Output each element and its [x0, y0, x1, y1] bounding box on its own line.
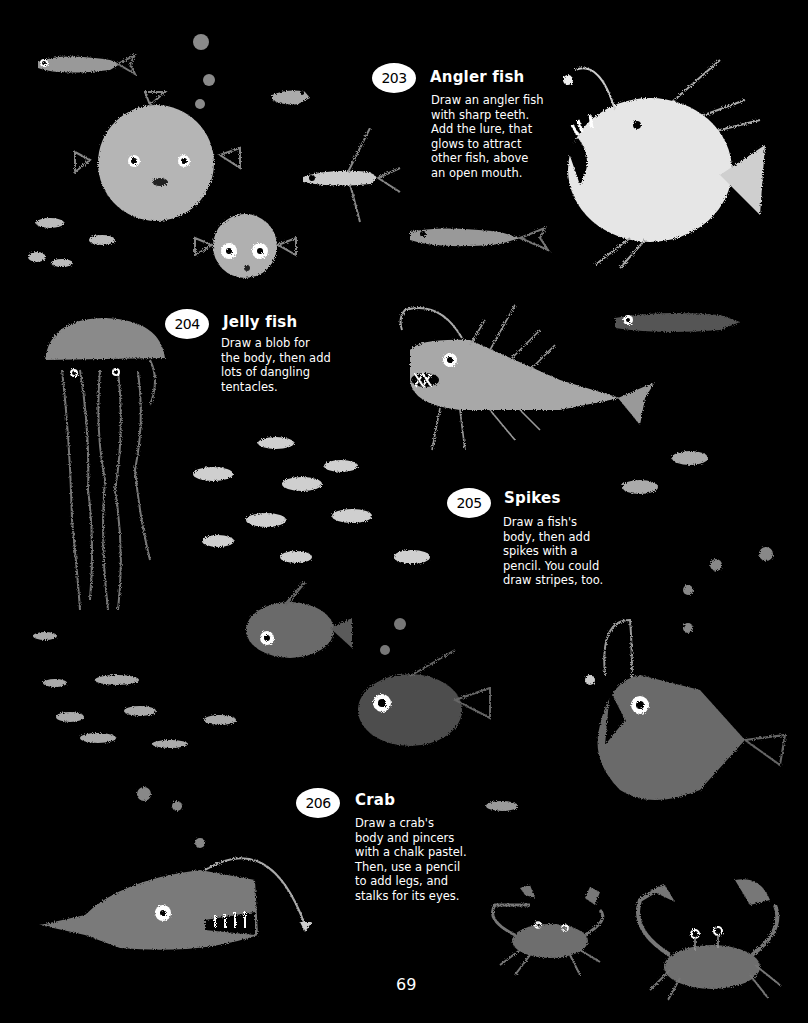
- small-fish-icon: [486, 801, 518, 811]
- crab-right-icon: [638, 879, 780, 1000]
- step-number-badge: 206: [296, 788, 340, 818]
- step-description: Draw an angler fish with sharp teeth. Ad…: [431, 93, 544, 181]
- dark-angler-fish-icon: [585, 547, 785, 800]
- small-fish-icon: [410, 228, 548, 250]
- dark-fish-icon: [246, 582, 352, 658]
- pufferfish-small-icon: [195, 214, 296, 278]
- step-description: Draw a blob for the body, then add lots …: [221, 336, 331, 394]
- small-fish-icon: [272, 91, 310, 105]
- step-title: Angler fish: [430, 68, 524, 86]
- small-fish-group-icon: [33, 632, 236, 748]
- page-number: 69: [396, 975, 416, 994]
- long-angler-fish-icon: [40, 787, 312, 950]
- small-fish-icon: [622, 451, 708, 494]
- small-fish-icon: [38, 55, 135, 74]
- step-number-badge: 203: [372, 63, 416, 93]
- bubbles-icon: [193, 34, 215, 109]
- step-description: Draw a crab's body and pincers with a ch…: [355, 816, 467, 904]
- step-number-badge: 204: [165, 309, 209, 339]
- angler-fish-white-icon: [563, 60, 765, 268]
- dark-fish-icon: [358, 650, 490, 746]
- step-description: Draw a fish's body, then add spikes with…: [503, 515, 603, 588]
- step-number-badge: 205: [447, 488, 491, 518]
- jellyfish-icon: [45, 318, 165, 610]
- crab-left-icon: [493, 885, 603, 975]
- small-fish-icon: [615, 313, 740, 332]
- step-title: Crab: [355, 791, 395, 809]
- pufferfish-large-icon: [75, 92, 240, 221]
- fish-school-icon: [193, 437, 430, 564]
- flying-fish-icon: [303, 128, 400, 222]
- step-title: Spikes: [504, 489, 561, 507]
- bubbles-icon: [380, 618, 406, 655]
- step-title: Jelly fish: [223, 313, 297, 331]
- small-fish-group-icon: [28, 218, 115, 267]
